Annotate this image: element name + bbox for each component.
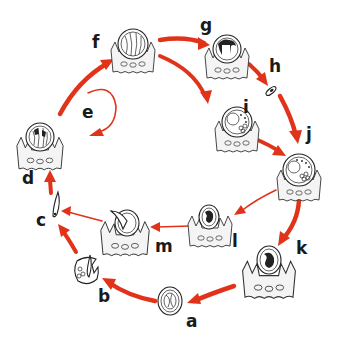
arrowhead-icon — [234, 205, 246, 215]
arrow-l-to-m — [157, 226, 190, 227]
arrow-a-to-b — [108, 282, 155, 301]
label-e: e — [82, 102, 94, 122]
label-f: f — [92, 32, 100, 52]
label-d: d — [22, 168, 34, 188]
stage-g — [205, 35, 249, 79]
arrowhead-icon — [198, 37, 210, 50]
arrow-h-to-j — [280, 96, 296, 136]
label-g: g — [200, 15, 212, 35]
label-k: k — [296, 238, 308, 258]
arrowhead-icon — [61, 206, 71, 216]
arrowhead-icon — [89, 128, 104, 136]
arrow-f-to-i — [160, 56, 205, 96]
label-m: m — [155, 236, 173, 256]
stage-k — [243, 246, 296, 298]
arrowhead-icon — [44, 170, 56, 182]
label-j: j — [305, 124, 312, 144]
label-l: l — [232, 231, 238, 251]
arrow-j-to-k — [282, 200, 299, 240]
label-c: c — [36, 210, 46, 230]
arrow-f-to-g — [160, 39, 204, 43]
arrowhead-icon — [150, 222, 160, 232]
label-b: b — [98, 286, 110, 306]
label-i: i — [243, 97, 249, 117]
stage-l — [188, 205, 232, 247]
life-cycle-diagram: a b c d e f g h i j k l m — [0, 0, 347, 342]
arrow-j-to-l — [240, 190, 276, 212]
stage-b — [75, 255, 99, 284]
arrow-m-to-c — [68, 212, 102, 221]
stage-j — [277, 154, 321, 201]
label-h: h — [269, 56, 281, 76]
stage-m — [101, 210, 149, 256]
stage-d — [17, 123, 63, 170]
arrowhead-icon — [200, 90, 212, 104]
arrowhead-icon — [187, 293, 201, 304]
stage-f — [111, 29, 155, 73]
stage-i — [215, 107, 259, 152]
arrow-k-to-a — [194, 286, 234, 301]
label-a: a — [186, 311, 197, 331]
arrowhead-icon — [289, 130, 302, 144]
stage-h — [265, 85, 278, 97]
stage-a — [158, 287, 182, 315]
stage-c — [53, 192, 59, 217]
